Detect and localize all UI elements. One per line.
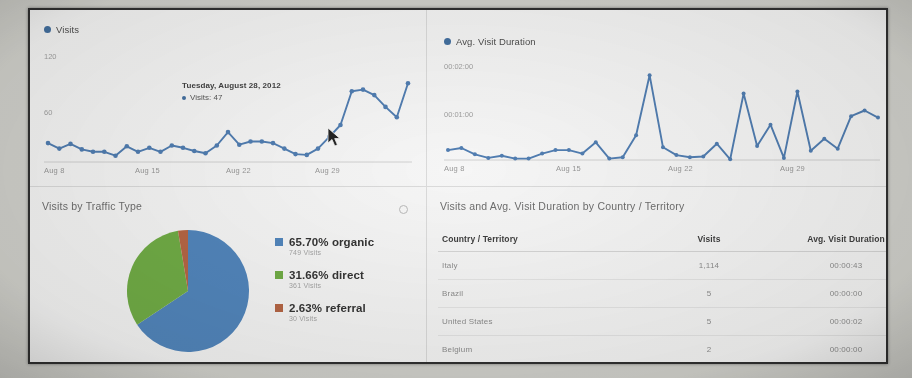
th-country[interactable]: Country / Territory — [438, 228, 634, 252]
tooltip-metric-value: 47 — [213, 93, 222, 102]
visits-chart-panel: Visits 120 60 Tuesday, August 28, 2012 V… — [30, 10, 426, 186]
pie-visits-direct: 361 Visits — [289, 282, 374, 289]
duration-xtick-2: Aug 22 — [668, 164, 693, 173]
cell-visits: 5 — [634, 280, 784, 308]
table-row[interactable]: Brazil500:00:00 — [438, 280, 888, 308]
panel-divider-vertical-top — [426, 10, 427, 186]
pie-legend-item-referral[interactable]: 2.63% referral 30 Visits — [275, 302, 374, 322]
panel-divider-horizontal — [30, 186, 886, 187]
country-table: Country / Territory Visits Avg. Visit Du… — [438, 228, 888, 364]
th-duration[interactable]: Avg. Visit Duration — [784, 228, 888, 252]
pie-label-organic: 65.70% organic — [289, 236, 374, 248]
panel-divider-vertical-bottom — [426, 187, 427, 362]
visits-xtick-3: Aug 29 — [315, 166, 340, 175]
traffic-pie-legend: 65.70% organic 749 Visits 31.66% direct … — [275, 236, 374, 335]
pie-swatch-organic — [275, 238, 283, 246]
duration-line-svg — [428, 10, 888, 186]
cell-country: Italy — [438, 252, 634, 280]
cell-duration: 00:00:00 — [784, 280, 888, 308]
cell-duration: 00:00:02 — [784, 308, 888, 336]
pie-label-referral: 2.63% referral — [289, 302, 366, 314]
tooltip-date: Tuesday, August 28, 2012 — [182, 80, 281, 92]
table-row[interactable]: Belgium200:00:00 — [438, 336, 888, 364]
cell-visits: 1,114 — [634, 252, 784, 280]
pie-label-direct: 31.66% direct — [289, 269, 364, 281]
mouse-cursor-icon — [327, 127, 343, 149]
cell-country: Belgium — [438, 336, 634, 364]
duration-xtick-3: Aug 29 — [780, 164, 805, 173]
cell-visits: 5 — [634, 308, 784, 336]
pie-swatch-direct — [275, 271, 283, 279]
visits-xtick-2: Aug 22 — [226, 166, 251, 175]
options-circle-icon[interactable] — [399, 205, 408, 214]
tooltip-value-row: Visits: 47 — [182, 92, 281, 104]
th-visits[interactable]: Visits — [634, 228, 784, 252]
country-table-panel: Visits and Avg. Visit Duration by Countr… — [428, 188, 888, 364]
tooltip-metric-label: Visits: — [190, 93, 211, 102]
duration-xtick-0: Aug 8 — [444, 164, 465, 173]
visits-tooltip: Tuesday, August 28, 2012 Visits: 47 — [182, 80, 281, 104]
country-panel-title: Visits and Avg. Visit Duration by Countr… — [440, 200, 684, 212]
pie-swatch-referral — [275, 304, 283, 312]
cell-visits: 2 — [634, 336, 784, 364]
screenshot-root: Visits 120 60 Tuesday, August 28, 2012 V… — [0, 0, 912, 378]
country-table-wrap: Country / Territory Visits Avg. Visit Du… — [438, 228, 888, 364]
duration-chart-panel: Avg. Visit Duration 00:02:00 00:01:00 Au… — [428, 10, 888, 186]
visits-xtick-0: Aug 8 — [44, 166, 65, 175]
dashboard-frame: Visits 120 60 Tuesday, August 28, 2012 V… — [28, 8, 888, 364]
traffic-pie-chart — [108, 226, 268, 356]
pie-visits-referral: 30 Visits — [289, 315, 374, 322]
table-header-row: Country / Territory Visits Avg. Visit Du… — [438, 228, 888, 252]
duration-xtick-1: Aug 15 — [556, 164, 581, 173]
table-row[interactable]: United States500:00:02 — [438, 308, 888, 336]
table-row[interactable]: Italy1,11400:00:43 — [438, 252, 888, 280]
traffic-panel-title: Visits by Traffic Type — [42, 200, 142, 212]
cell-country: United States — [438, 308, 634, 336]
cell-duration: 00:00:00 — [784, 336, 888, 364]
tooltip-dot-icon — [182, 96, 186, 100]
pie-legend-item-direct[interactable]: 31.66% direct 361 Visits — [275, 269, 374, 289]
pie-legend-item-organic[interactable]: 65.70% organic 749 Visits — [275, 236, 374, 256]
visits-xtick-1: Aug 15 — [135, 166, 160, 175]
cell-country: Brazil — [438, 280, 634, 308]
traffic-type-panel: Visits by Traffic Type 65.70% organic 74… — [30, 188, 426, 364]
pie-visits-organic: 749 Visits — [289, 249, 374, 256]
cell-duration: 00:00:43 — [784, 252, 888, 280]
